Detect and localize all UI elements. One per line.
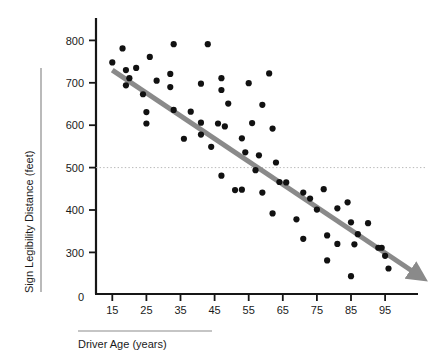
scatter-point bbox=[259, 190, 265, 196]
scatter-point bbox=[181, 136, 187, 142]
y-tick-label-400: 400 bbox=[66, 204, 84, 216]
x-tick-label-15: 15 bbox=[106, 304, 118, 316]
scatter-point bbox=[324, 257, 330, 263]
scatter-point bbox=[239, 135, 245, 141]
scatter-point bbox=[225, 100, 231, 106]
scatter-point bbox=[205, 41, 211, 47]
scatter-point bbox=[314, 206, 320, 212]
scatter-point bbox=[300, 236, 306, 242]
scatter-point bbox=[246, 80, 252, 86]
scatter-point bbox=[133, 65, 139, 71]
x-axis-title: Driver Age (years) bbox=[78, 338, 167, 350]
scatter-point bbox=[123, 82, 129, 88]
scatter-point bbox=[222, 123, 228, 129]
scatter-point bbox=[273, 159, 279, 165]
scatter-point bbox=[249, 120, 255, 126]
scatter-point bbox=[344, 199, 350, 205]
scatter-point bbox=[171, 41, 177, 47]
scatter-point bbox=[276, 179, 282, 185]
scatter-point bbox=[259, 102, 265, 108]
trend-line bbox=[112, 70, 419, 276]
y-tick-label-800: 800 bbox=[66, 35, 84, 47]
scatter-point bbox=[218, 87, 224, 93]
scatter-point bbox=[266, 70, 272, 76]
scatter-point bbox=[300, 190, 306, 196]
scatter-point bbox=[382, 253, 388, 259]
scatter-plot: Sign Legibility Distance (feet) 800 700 … bbox=[0, 0, 439, 363]
scatter-point bbox=[269, 125, 275, 131]
chart-figure: Sign Legibility Distance (feet) 800 700 … bbox=[0, 0, 439, 363]
scatter-point bbox=[109, 59, 115, 65]
scatter-point bbox=[143, 109, 149, 115]
x-axis-tick-labels: 15 25 35 45 55 65 75 85 95 bbox=[106, 304, 391, 316]
y-axis-origin-label: 0 bbox=[78, 291, 84, 303]
scatter-point bbox=[324, 232, 330, 238]
scatter-point bbox=[188, 109, 194, 115]
x-tick-label-95: 95 bbox=[379, 304, 391, 316]
y-tick-label-300: 300 bbox=[66, 247, 84, 259]
scatter-point bbox=[198, 131, 204, 137]
scatter-point bbox=[307, 195, 313, 201]
scatter-point bbox=[218, 75, 224, 81]
scatter-point bbox=[119, 45, 125, 51]
scatter-point bbox=[365, 220, 371, 226]
x-tick-label-85: 85 bbox=[345, 304, 357, 316]
scatter-point bbox=[334, 241, 340, 247]
scatter-point bbox=[239, 187, 245, 193]
scatter-point bbox=[385, 265, 391, 271]
scatter-point bbox=[252, 167, 258, 173]
x-tick-label-25: 25 bbox=[140, 304, 152, 316]
x-tick-label-35: 35 bbox=[174, 304, 186, 316]
scatter-point bbox=[198, 81, 204, 87]
scatter-point bbox=[167, 71, 173, 77]
scatter-point bbox=[143, 120, 149, 126]
x-tick-label-45: 45 bbox=[208, 304, 220, 316]
y-tick-label-700: 700 bbox=[66, 77, 84, 89]
x-tick-label-65: 65 bbox=[277, 304, 289, 316]
y-axis-tick-labels: 800 700 600 500 400 300 bbox=[66, 35, 84, 259]
scatter-point bbox=[123, 67, 129, 73]
scatter-point bbox=[351, 241, 357, 247]
scatter-point bbox=[348, 273, 354, 279]
x-tick-label-75: 75 bbox=[311, 304, 323, 316]
scatter-point bbox=[140, 91, 146, 97]
scatter-point bbox=[355, 231, 361, 237]
scatter-point bbox=[242, 149, 248, 155]
scatter-point bbox=[215, 120, 221, 126]
scatter-point bbox=[269, 210, 275, 216]
scatter-point bbox=[198, 120, 204, 126]
scatter-point bbox=[167, 84, 173, 90]
scatter-point bbox=[126, 75, 132, 81]
scatter-point bbox=[348, 219, 354, 225]
scatter-point bbox=[171, 107, 177, 113]
scatter-point bbox=[283, 179, 289, 185]
scatter-point bbox=[218, 173, 224, 179]
scatter-point bbox=[208, 144, 214, 150]
scatter-point bbox=[334, 205, 340, 211]
scatter-point bbox=[379, 245, 385, 251]
scatter-point bbox=[293, 216, 299, 222]
y-axis-title: Sign Legibility Distance (feet) bbox=[23, 151, 35, 293]
scatter-point bbox=[256, 152, 262, 158]
scatter-point bbox=[232, 187, 238, 193]
scatter-point bbox=[154, 78, 160, 84]
y-tick-label-600: 600 bbox=[66, 119, 84, 131]
x-tick-label-55: 55 bbox=[243, 304, 255, 316]
scatter-point bbox=[321, 186, 327, 192]
y-tick-label-500: 500 bbox=[66, 162, 84, 174]
scatter-point bbox=[147, 54, 153, 60]
